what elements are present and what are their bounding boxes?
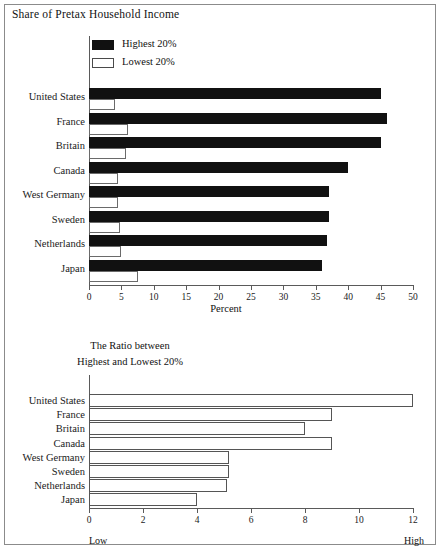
- top-chart-tick-label: 50: [408, 292, 418, 302]
- top-chart-bar-highest: [89, 235, 327, 246]
- top-chart-bar-highest: [89, 137, 381, 148]
- top-chart-tick-label: 40: [343, 292, 353, 302]
- top-chart-bar-highest: [89, 88, 381, 99]
- top-chart-tick-label: 20: [214, 292, 224, 302]
- top-chart-tick: [381, 285, 382, 290]
- bottom-chart-tick: [143, 508, 144, 513]
- bottom-chart-tick-label: 4: [195, 515, 200, 525]
- bottom-chart-tick-label: 12: [408, 515, 418, 525]
- bottom-chart-tick-label: 2: [141, 515, 146, 525]
- top-chart-tick: [316, 285, 317, 290]
- bottom-chart-category-label: Japan: [1, 494, 85, 505]
- top-chart-tick: [283, 285, 284, 290]
- bottom-chart-bar: [89, 493, 197, 506]
- bottom-chart-low-annotation: Low: [89, 535, 107, 546]
- bottom-chart-category-label: Sweden: [1, 466, 85, 477]
- top-chart-bar-lowest: [89, 148, 126, 159]
- top-chart-category-label: Japan: [1, 263, 85, 274]
- top-chart-bar-lowest: [89, 246, 121, 257]
- page-title: Share of Pretax Household Income: [12, 8, 179, 20]
- top-chart-category-label: Canada: [1, 165, 85, 176]
- bottom-chart-tick: [305, 508, 306, 513]
- bottom-chart-bar: [89, 451, 229, 464]
- top-chart-tick-label: 30: [279, 292, 289, 302]
- bottom-chart-tick: [251, 508, 252, 513]
- figure-border: [4, 4, 436, 545]
- bottom-chart-category-label: Britain: [1, 423, 85, 434]
- bottom-chart-tick: [197, 508, 198, 513]
- top-chart-tick-label: 35: [311, 292, 321, 302]
- top-chart-bar-highest: [89, 186, 329, 197]
- bottom-chart-tick-label: 6: [249, 515, 254, 525]
- bottom-chart-category-label: United States: [1, 395, 85, 406]
- top-chart-category-label: West Germany: [1, 189, 85, 200]
- top-chart-bar-highest: [89, 211, 329, 222]
- top-chart-tick: [186, 285, 187, 290]
- bottom-chart-bar: [89, 408, 332, 421]
- top-chart-category-label: Sweden: [1, 214, 85, 225]
- top-chart-bar-lowest: [89, 124, 128, 135]
- legend-swatch-highest: [92, 40, 114, 50]
- top-chart-tick: [251, 285, 252, 290]
- bottom-chart-bar: [89, 479, 227, 492]
- top-chart-tick: [154, 285, 155, 290]
- bottom-chart-tick: [89, 508, 90, 513]
- bottom-chart-caption-line1: The Ratio between: [40, 340, 220, 351]
- bottom-chart-tick: [413, 508, 414, 513]
- top-chart-bar-highest: [89, 162, 348, 173]
- bottom-chart-category-label: Netherlands: [1, 480, 85, 491]
- legend-label-highest: Highest 20%: [122, 38, 177, 49]
- bottom-chart-category-label: West Germany: [1, 452, 85, 463]
- top-chart-bar-lowest: [89, 197, 118, 208]
- top-chart-tick-label: 25: [246, 292, 256, 302]
- legend-label-lowest: Lowest 20%: [122, 56, 175, 67]
- bottom-chart-tick-label: 10: [354, 515, 364, 525]
- top-chart-tick: [219, 285, 220, 290]
- bottom-chart-caption-line2: Highest and Lowest 20%: [40, 356, 220, 367]
- bottom-chart-high-annotation: High: [404, 535, 424, 546]
- top-chart-bar-lowest: [89, 173, 118, 184]
- bottom-chart-tick-label: 0: [87, 515, 92, 525]
- top-chart-tick: [348, 285, 349, 290]
- top-chart-category-label: Netherlands: [1, 238, 85, 249]
- bottom-chart-bar: [89, 422, 305, 435]
- top-chart-tick-label: 0: [87, 292, 92, 302]
- bottom-chart-category-label: Canada: [1, 438, 85, 449]
- top-chart-tick-label: 5: [119, 292, 124, 302]
- legend-swatch-lowest: [92, 58, 114, 68]
- top-chart-bar-highest: [89, 113, 387, 124]
- top-chart-bar-lowest: [89, 222, 120, 233]
- bottom-chart-tick: [359, 508, 360, 513]
- figure-page: Share of Pretax Household Income Highest…: [0, 0, 440, 549]
- bottom-chart-bar: [89, 465, 229, 478]
- top-chart-tick: [413, 285, 414, 290]
- top-chart-bar-lowest: [89, 99, 115, 110]
- top-chart-tick-label: 45: [376, 292, 386, 302]
- bottom-chart-bar: [89, 437, 332, 450]
- bottom-chart-bar: [89, 394, 413, 407]
- top-chart-tick-label: 10: [149, 292, 159, 302]
- top-chart-category-label: Britain: [1, 140, 85, 151]
- top-chart-category-label: France: [1, 116, 85, 127]
- bottom-chart-tick-label: 8: [303, 515, 308, 525]
- top-chart-tick: [89, 285, 90, 290]
- top-chart-tick-label: 15: [181, 292, 191, 302]
- top-chart-bar-highest: [89, 260, 322, 271]
- top-chart-category-label: United States: [1, 91, 85, 102]
- top-chart-tick: [121, 285, 122, 290]
- bottom-chart-category-label: France: [1, 409, 85, 420]
- top-chart-bar-lowest: [89, 271, 138, 282]
- top-chart-x-axis-title: Percent: [210, 303, 242, 314]
